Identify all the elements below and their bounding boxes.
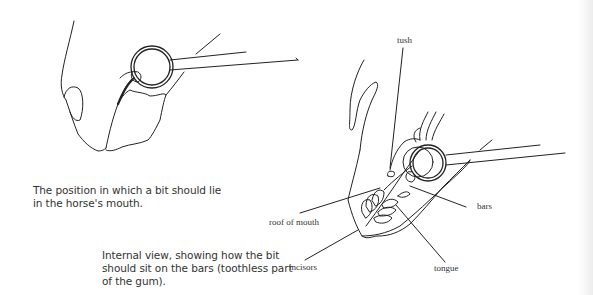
rein [446, 140, 565, 165]
incisor [378, 207, 396, 216]
label-tongue: tongue [434, 263, 459, 273]
incisors-leader [305, 230, 358, 260]
bars-gum [398, 192, 410, 197]
cheek-fold [166, 72, 184, 95]
label-tush: tush [397, 35, 412, 45]
nasal-outline [350, 60, 378, 150]
caption-external-view: The position in which a bit should lie i… [33, 184, 233, 210]
cheekpiece-strap [426, 112, 436, 140]
incisor [361, 200, 372, 218]
caption-internal-view: Internal view, showing how the bit shoul… [102, 249, 302, 288]
lower-jaw [106, 90, 166, 151]
cheekpiece-strap [432, 114, 444, 140]
tush-leader [390, 48, 403, 168]
mouth-shadow [118, 80, 132, 104]
book-page: The position in which a bit should lie i… [0, 0, 593, 295]
rein [170, 52, 298, 70]
external-view-drawing [61, 21, 298, 151]
label-roof-of-mouth: roof of mouth [269, 217, 319, 227]
tush-tooth [387, 171, 394, 177]
internal-view-drawing [300, 48, 565, 262]
mouthpiece-end [406, 172, 415, 182]
cheekpiece [196, 34, 220, 54]
label-bars: bars [477, 201, 492, 211]
muzzle-outline [61, 21, 106, 151]
bars-leader [410, 186, 466, 207]
label-incisors: incisors [289, 262, 317, 272]
tongue-outline [366, 150, 420, 226]
head-outline [348, 150, 470, 238]
tongue-upper [384, 166, 412, 190]
bit-ring-inner [134, 49, 170, 85]
whisker [120, 72, 132, 78]
